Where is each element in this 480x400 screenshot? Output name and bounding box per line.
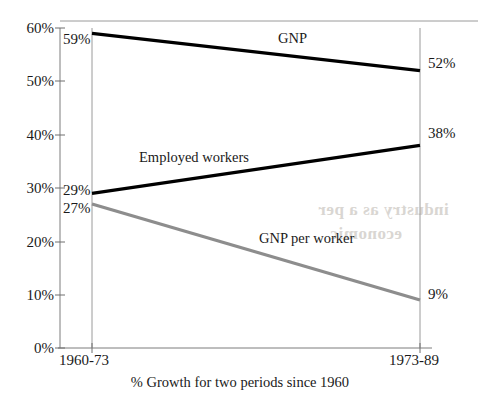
- y-tick-label-60: 60%: [8, 21, 54, 36]
- chart-figure: industry as a per economic 60% 50% 40%: [0, 0, 480, 400]
- end-value-employed-workers: 38%: [428, 126, 456, 141]
- series-label-gnp-per-worker: GNP per worker: [259, 231, 354, 246]
- start-value-gnp: 59%: [63, 32, 91, 47]
- start-value-gnp-per-worker: 27%: [63, 201, 91, 216]
- series-line-gnp: [92, 33, 420, 70]
- series-line-gnp-per-worker: [92, 204, 420, 300]
- x-tick-label-1973-89: 1973-89: [389, 353, 439, 368]
- y-tick-label-0: 0%: [8, 341, 54, 356]
- y-tick-label-40: 40%: [8, 128, 54, 143]
- x-tick-label-1960-73: 1960-73: [59, 353, 109, 368]
- y-tick-label-20: 20%: [8, 235, 54, 250]
- y-tick-label-50: 50%: [8, 74, 54, 89]
- end-value-gnp-per-worker: 9%: [428, 287, 448, 302]
- chart-caption: % Growth for two periods since 1960: [0, 375, 480, 390]
- start-value-employed-workers: 29%: [63, 183, 91, 198]
- y-tick-label-10: 10%: [8, 288, 54, 303]
- series-label-gnp: GNP: [278, 31, 307, 46]
- series-label-employed-workers: Employed workers: [139, 150, 249, 165]
- y-tick-label-30: 30%: [8, 181, 54, 196]
- end-value-gnp: 52%: [428, 56, 456, 71]
